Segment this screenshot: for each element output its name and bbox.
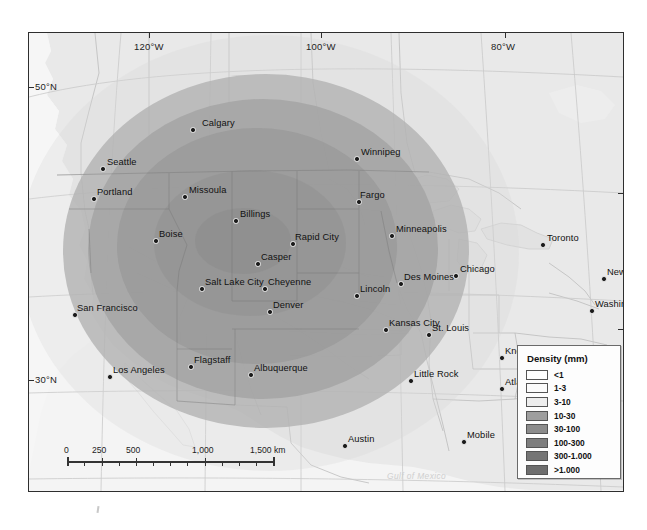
scale-tick-minor [153, 461, 154, 466]
city-label: Casper [261, 252, 292, 262]
city-label: Toronto [547, 233, 579, 243]
legend-swatch [526, 424, 548, 434]
scale-tick-minor [84, 461, 85, 466]
tick-lon-120w [149, 33, 150, 38]
scale-label-1500: 1,500 km [250, 445, 285, 455]
legend-item[interactable]: 300-1.000 [526, 450, 614, 464]
scale-tick-1000 [205, 458, 206, 466]
city-label: Billings [240, 209, 270, 219]
city-dot-icon [182, 194, 188, 200]
city-dot-icon [342, 443, 348, 449]
city-label: Flagstaff [194, 355, 230, 365]
city-dot-icon [461, 439, 467, 445]
city-dot-icon [354, 293, 360, 299]
scale-tick-minor [170, 461, 171, 466]
screenshot-root: 120°W 100°W 80°W 50°N 30°N CalgarySeattl… [0, 0, 647, 530]
legend-item[interactable]: 100-300 [526, 436, 614, 450]
scale-bar: 0 250 500 1,000 1,500 km [67, 445, 275, 475]
city-label: Lincoln [360, 284, 390, 294]
city-label: Austin [348, 434, 374, 444]
legend-item[interactable]: <1 [526, 368, 614, 382]
tick-right-2 [618, 329, 623, 330]
city-dot-icon [255, 261, 261, 267]
legend-swatch [526, 397, 548, 407]
city-dot-icon [248, 372, 254, 378]
scale-tick-end [273, 457, 275, 466]
legend-label: 3-10 [554, 397, 571, 407]
city-label: New York [607, 267, 623, 277]
scale-tick-minor [187, 461, 188, 466]
city-label: Little Rock [414, 369, 459, 379]
legend-item[interactable]: >1.000 [526, 463, 614, 477]
city-label: Boise [159, 229, 183, 239]
legend-rows: <11-33-1010-3030-100100-300300-1.000>1.0… [526, 368, 614, 477]
axis-label-lon-100w: 100°W [306, 41, 336, 52]
tick-lat-50n [29, 87, 34, 88]
legend-item[interactable]: 30-100 [526, 422, 614, 436]
legend-label: 30-100 [554, 424, 580, 434]
city-label: Fargo [360, 190, 385, 200]
scale-label-250: 250 [92, 445, 106, 455]
legend-title: Density (mm) [527, 353, 614, 364]
city-dot-icon [267, 309, 273, 315]
region-label-mexico: M E X I C O [201, 490, 277, 491]
city-dot-icon [188, 364, 194, 370]
legend-item[interactable]: 1-3 [526, 382, 614, 396]
city-label: Rapid City [295, 232, 339, 242]
legend-item[interactable]: 10-30 [526, 409, 614, 423]
region-label-gulf-of-mexico: Gulf of Mexico [387, 471, 446, 481]
legend-label: 300-1.000 [554, 451, 592, 461]
city-dot-icon [408, 378, 414, 384]
city-dot-icon [499, 355, 505, 361]
city-dot-icon [453, 273, 459, 279]
city-dot-icon [389, 233, 395, 239]
axis-label-lat-30n: 30°N [35, 374, 57, 385]
city-dot-icon [383, 327, 389, 333]
legend-swatch [526, 451, 548, 461]
city-label: Des Moines [404, 272, 454, 282]
tick-right-1 [618, 193, 623, 194]
city-dot-icon [398, 281, 404, 287]
city-label: Washington, D.C. [595, 299, 623, 309]
city-label: San Francisco [77, 303, 138, 313]
city-dot-icon [540, 242, 546, 248]
legend-swatch [526, 370, 548, 380]
city-dot-icon [426, 332, 432, 338]
city-label: Portland [97, 187, 132, 197]
city-dot-icon [100, 166, 106, 172]
axis-label-lon-120w: 120°W [134, 41, 164, 52]
legend-label: <1 [554, 370, 564, 380]
city-dot-icon [589, 308, 595, 314]
map-frame[interactable]: 120°W 100°W 80°W 50°N 30°N CalgarySeattl… [28, 32, 624, 492]
legend-swatch [526, 383, 548, 393]
tick-lon-80w [505, 33, 506, 38]
axis-label-lon-80w: 80°W [491, 41, 515, 52]
scale-tick-minor [119, 461, 120, 466]
legend-swatch [526, 411, 548, 421]
tick-lon-100w [321, 33, 322, 38]
city-dot-icon [601, 276, 607, 282]
legend-label: >1.000 [554, 465, 580, 475]
city-dot-icon [354, 156, 360, 162]
density-legend[interactable]: Density (mm) <11-33-1010-3030-100100-300… [517, 345, 621, 479]
city-label: Minneapolis [396, 224, 447, 234]
scale-tick-minor [222, 461, 223, 466]
scale-tick-500 [136, 458, 137, 466]
legend-swatch [526, 438, 548, 448]
city-label: Missoula [189, 185, 226, 195]
city-label: Albuquerque [254, 363, 308, 373]
city-label: Calgary [202, 118, 235, 128]
city-label: Cheyenne [268, 277, 311, 287]
stray-mark [97, 506, 100, 513]
map-canvas[interactable]: 120°W 100°W 80°W 50°N 30°N CalgarySeattl… [29, 33, 623, 491]
city-dot-icon [233, 218, 239, 224]
legend-item[interactable]: 3-10 [526, 395, 614, 409]
legend-label: 100-300 [554, 438, 585, 448]
city-dot-icon [199, 286, 205, 292]
city-label: Mobile [467, 430, 495, 440]
scale-label-1000: 1,000 [192, 445, 214, 455]
city-dot-icon [499, 386, 505, 392]
tick-lat-30n [29, 380, 34, 381]
legend-swatch [526, 465, 548, 475]
city-label: Winnipeg [361, 147, 401, 157]
